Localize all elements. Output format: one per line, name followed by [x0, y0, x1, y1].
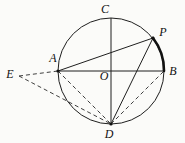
label-point-P: P: [158, 25, 167, 39]
dashed-segment-DB: [111, 71, 164, 124]
label-point-C: C: [101, 2, 110, 16]
geometry-figure: C P B A E O D: [0, 0, 185, 143]
dashed-segment-ED: [19, 76, 111, 124]
label-point-D: D: [104, 127, 114, 141]
dashed-segment-EA: [19, 71, 58, 76]
diagram-canvas: C P B A E O D: [0, 0, 185, 143]
label-point-A: A: [48, 51, 57, 65]
label-point-O: O: [100, 69, 109, 83]
label-point-E: E: [5, 67, 14, 81]
point-dot-P: [151, 36, 154, 39]
bold-arc-PB: [153, 38, 164, 71]
point-dot-D: [109, 122, 112, 125]
point-dot-A: [56, 69, 59, 72]
label-point-B: B: [169, 64, 177, 78]
